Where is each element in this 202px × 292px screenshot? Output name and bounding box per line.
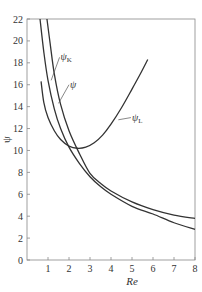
curve-label-psi-l: ψL	[132, 112, 143, 125]
x-tick-label: 3	[88, 263, 93, 274]
x-tick-label: 5	[130, 263, 135, 274]
x-tick-label: 7	[172, 263, 177, 274]
leader-line-psi	[59, 85, 70, 104]
curve-label-psi: ψ	[70, 79, 77, 90]
x-axis-label: Re	[125, 275, 138, 287]
x-ticks: 12345678	[46, 257, 198, 274]
y-tick-label: 6	[18, 189, 23, 200]
x-tick-label: 2	[67, 263, 72, 274]
y-tick-label: 22	[13, 14, 23, 25]
curve-labels: ψKψψL	[51, 51, 142, 124]
x-tick-label: 6	[151, 263, 156, 274]
leader-line-psi-l	[118, 118, 131, 120]
y-tick-label: 8	[18, 167, 23, 178]
curve-psi-l	[41, 60, 148, 149]
x-tick-label: 4	[109, 263, 114, 274]
y-tick-label: 2	[18, 233, 23, 244]
y-axis-label: ψ	[0, 136, 12, 143]
x-tick-label: 8	[193, 263, 198, 274]
y-tick-label: 10	[13, 145, 23, 156]
y-tick-label: 20	[13, 35, 23, 46]
curve-psi	[47, 19, 195, 218]
y-ticks: 0246810121416182022	[13, 14, 30, 266]
y-tick-label: 16	[13, 79, 23, 90]
y-tick-label: 14	[13, 101, 23, 112]
y-tick-label: 4	[18, 211, 23, 222]
x-tick-label: 1	[46, 263, 51, 274]
y-tick-label: 0	[18, 255, 23, 266]
curve-label-psi-k: ψK	[61, 51, 72, 64]
chart: 12345678 0246810121416182022 ψKψψL Re ψ	[0, 0, 202, 292]
y-tick-label: 12	[13, 123, 23, 134]
y-tick-label: 18	[13, 57, 23, 68]
